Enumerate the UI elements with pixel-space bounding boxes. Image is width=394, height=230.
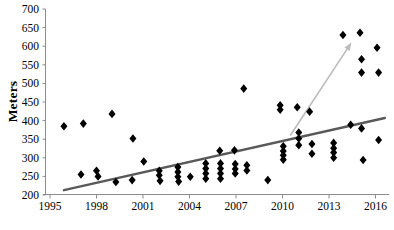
y-axis-title: Meters (5, 9, 22, 195)
data-point (339, 31, 346, 40)
x-tick-label: 2004 (178, 200, 201, 212)
x-tick-label: 2013 (318, 200, 341, 212)
y-tick-label: 550 (22, 59, 40, 71)
data-point (374, 43, 381, 52)
data-point (140, 157, 147, 166)
scatter-chart: Meters 200250300350400450500550600650700… (0, 0, 394, 230)
data-point (308, 140, 315, 149)
data-point (109, 110, 116, 119)
y-tick-label: 600 (22, 40, 40, 52)
y-tick-label: 450 (22, 96, 40, 108)
data-point (217, 174, 224, 183)
y-tick-label: 200 (22, 189, 40, 201)
arrow-head (344, 42, 351, 50)
y-tick-label: 650 (22, 22, 40, 34)
y-tick-label: 350 (22, 133, 40, 145)
chart-canvas: 2002503003504004505005506006507001995199… (0, 0, 394, 230)
data-point (360, 156, 367, 165)
data-point (347, 120, 354, 129)
y-tick-label: 250 (22, 170, 40, 182)
arrow-line (290, 49, 347, 135)
y-tick-label: 400 (22, 115, 40, 127)
data-point (78, 170, 85, 179)
y-tick-label: 700 (22, 3, 40, 15)
data-point (280, 155, 287, 164)
data-point (232, 169, 239, 178)
data-point (357, 29, 364, 38)
x-tick-label: 2001 (132, 200, 155, 212)
data-point (294, 103, 301, 112)
data-point (187, 172, 194, 181)
data-point (277, 106, 284, 115)
data-point (243, 166, 250, 175)
x-tick-label: 1995 (39, 200, 62, 212)
data-point (240, 84, 247, 93)
data-point (308, 149, 315, 158)
y-tick-label: 500 (22, 77, 40, 89)
data-point (375, 136, 382, 145)
data-point (129, 134, 136, 143)
data-point (375, 68, 382, 77)
data-point (295, 141, 302, 150)
x-tick-label: 1998 (85, 200, 108, 212)
data-point (264, 176, 271, 185)
data-point (80, 119, 87, 128)
x-tick-label: 2016 (364, 200, 387, 212)
data-point (358, 55, 365, 64)
data-point (157, 177, 164, 186)
x-tick-label: 2007 (225, 200, 248, 212)
data-point (330, 154, 337, 163)
data-point (60, 122, 67, 131)
x-tick-label: 2010 (271, 200, 294, 212)
data-point (358, 68, 365, 77)
y-tick-label: 300 (22, 152, 40, 164)
data-point (129, 176, 136, 185)
trend-line (64, 118, 385, 190)
data-point (358, 124, 365, 133)
data-point (202, 174, 209, 183)
